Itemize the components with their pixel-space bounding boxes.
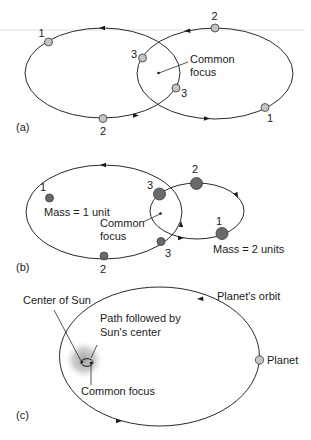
large-mass-body bbox=[191, 178, 203, 190]
sun-glow bbox=[64, 340, 104, 380]
center-of-sun-label: Center of Sun bbox=[23, 294, 91, 306]
panel-c: Center of Sun Path followed by Sun's cen… bbox=[16, 287, 298, 426]
position-number: 2 bbox=[212, 10, 218, 22]
arrow-right-icon bbox=[116, 419, 122, 423]
large-mass-label: Mass = 2 units bbox=[213, 243, 285, 255]
panel-a: Common focus 1 2 3 1 2 3 (a) bbox=[16, 10, 293, 137]
leader-line bbox=[143, 214, 160, 222]
large-mass-body bbox=[216, 228, 228, 240]
body-position-marker bbox=[139, 54, 147, 62]
planet-label: Planet bbox=[267, 354, 298, 366]
center-of-sun-dot bbox=[81, 361, 84, 364]
common-focus-label: Common focus bbox=[81, 385, 155, 397]
large-mass-body bbox=[154, 188, 166, 200]
arrow-left-icon bbox=[100, 163, 106, 167]
sun-path-label: Path followed by bbox=[100, 312, 181, 324]
body-position-marker bbox=[211, 24, 219, 32]
position-number: 1 bbox=[39, 27, 45, 39]
common-focus-label: Common bbox=[190, 53, 235, 65]
body-position-marker bbox=[172, 84, 180, 92]
arrow-left-icon bbox=[197, 297, 204, 301]
panel-b: Common focus 1 Mass = 1 unit 2 3 1 Mass … bbox=[16, 163, 285, 275]
arrow-down-icon bbox=[234, 192, 239, 198]
common-focus-label: focus bbox=[190, 66, 217, 78]
position-number: 3 bbox=[165, 247, 171, 259]
leader-line bbox=[159, 62, 188, 73]
arrow-left-icon bbox=[99, 26, 105, 30]
small-mass-label: Mass = 1 unit bbox=[44, 206, 110, 218]
binary-orbit-figure: Common focus 1 2 3 1 2 3 (a) Common focu… bbox=[0, 0, 311, 440]
common-focus-label: Common bbox=[100, 217, 145, 229]
position-number: 1 bbox=[40, 181, 46, 193]
planet-body bbox=[255, 356, 263, 364]
position-number: 1 bbox=[216, 215, 222, 227]
position-number: 1 bbox=[267, 112, 273, 124]
position-number: 3 bbox=[181, 87, 187, 99]
arrow-left-icon bbox=[184, 29, 191, 33]
panel-label: (c) bbox=[16, 409, 29, 421]
arrow-right-icon bbox=[204, 116, 210, 120]
arrow-right-icon bbox=[178, 236, 184, 240]
body-position-marker bbox=[261, 104, 269, 112]
small-mass-body bbox=[157, 238, 165, 246]
panel-label: (a) bbox=[16, 121, 29, 133]
body-position-marker bbox=[45, 38, 53, 46]
body-position-marker bbox=[99, 115, 107, 123]
position-number: 2 bbox=[100, 125, 106, 137]
small-mass-body bbox=[46, 194, 54, 202]
panel-label: (b) bbox=[16, 261, 29, 273]
position-number: 3 bbox=[147, 179, 153, 191]
position-number: 3 bbox=[131, 48, 137, 60]
position-number: 2 bbox=[100, 263, 106, 275]
common-focus-dot bbox=[90, 362, 93, 365]
small-mass-body bbox=[100, 252, 108, 260]
planet-orbit-label: Planet's orbit bbox=[217, 290, 280, 302]
common-focus-label: focus bbox=[100, 230, 127, 242]
sun-path-label: Sun's center bbox=[100, 326, 161, 338]
position-number: 2 bbox=[192, 163, 198, 175]
